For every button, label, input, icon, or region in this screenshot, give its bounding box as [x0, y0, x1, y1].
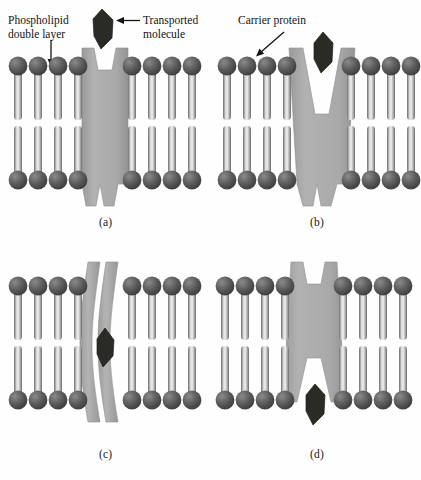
- lipid-upper-right: [334, 277, 413, 340]
- panel-d-caption: (d): [310, 448, 324, 460]
- lipid-lower-left: [218, 126, 297, 189]
- panel-b: [211, 48, 421, 208]
- facilitated-diffusion-figure: Phospholipid double layer Transported mo…: [0, 0, 421, 480]
- lipid-lower-right: [342, 126, 421, 189]
- panel-d-diagram: [211, 262, 421, 427]
- lipid-upper-left: [9, 277, 88, 340]
- transported-molecule-d: [306, 384, 325, 425]
- lipid-upper-left: [9, 57, 88, 120]
- panel-d: [211, 262, 421, 427]
- panel-a-diagram: [0, 48, 210, 208]
- carrier-protein-shape: [82, 48, 128, 206]
- lipid-group-right: [334, 277, 413, 410]
- lipid-lower-left: [9, 126, 88, 189]
- lipid-upper-left: [218, 57, 297, 120]
- panel-c-caption: (c): [99, 448, 112, 460]
- lipid-lower-left: [216, 346, 295, 409]
- lipid-group-left: [216, 277, 295, 410]
- panel-c: [0, 262, 210, 427]
- lipid-group-right: [342, 57, 421, 190]
- panel-a: [0, 48, 210, 208]
- panel-b-caption: (b): [310, 216, 324, 228]
- lipid-upper-right: [123, 277, 202, 340]
- lipid-lower-right: [334, 346, 413, 409]
- panel-b-diagram: [211, 48, 421, 208]
- lipid-lower-right: [123, 346, 202, 409]
- lipid-group-right: [123, 57, 202, 190]
- panel-c-diagram: [0, 262, 210, 427]
- lipid-upper-right: [123, 57, 202, 120]
- lipid-group-left: [218, 57, 297, 190]
- panel-a-caption: (a): [99, 216, 112, 228]
- lipid-upper-left: [216, 277, 295, 340]
- lipid-group-left: [9, 277, 88, 410]
- lipid-lower-right: [123, 126, 202, 189]
- lipid-lower-left: [9, 346, 88, 409]
- transported-molecule-a: [88, 8, 124, 54]
- lipid-group-left: [9, 57, 88, 190]
- lipid-upper-right: [342, 57, 421, 120]
- lipid-group-right: [123, 277, 202, 410]
